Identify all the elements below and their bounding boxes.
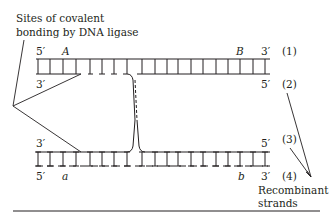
strand-2-crossover-descending	[127, 74, 135, 120]
ligase-leader-lines	[13, 40, 81, 152]
strand1-3prime-label: 3′	[261, 45, 271, 57]
bottom-duplex-base-pairs	[35, 152, 268, 166]
recombinant-annotation-line1: Recombinant	[258, 184, 329, 196]
strand4-5prime-label: 5′	[36, 170, 46, 182]
strand-3-right-segment	[137, 120, 270, 152]
strand4-number: (4)	[282, 170, 297, 182]
top-duplex: 5′ A B 3′ (1)	[36, 45, 297, 120]
strand2-number: (2)	[282, 78, 297, 90]
top-duplex-base-pairs	[38, 59, 265, 74]
strand1-5prime-label: 5′	[36, 45, 46, 57]
strand2-5prime-label: 5′	[261, 78, 271, 90]
strand4-3prime-label: 3′	[261, 170, 271, 182]
bottom-duplex: 3′ 5′ (3)	[35, 120, 297, 182]
holliday-junction-ligation-diagram: Sites of covalent bonding by DNA ligase …	[0, 0, 333, 213]
ligase-annotation-line1: Sites of covalent	[16, 12, 105, 24]
leader-to-bottom-nick	[13, 106, 81, 152]
marker-a: a	[62, 170, 68, 182]
strand3-5prime-label: 5′	[261, 137, 271, 149]
strand3-number: (3)	[282, 133, 297, 145]
marker-b: b	[238, 170, 245, 182]
leader-to-top-nick	[13, 40, 81, 106]
strand3-3prime-label: 3′	[36, 137, 46, 149]
ligase-annotation-line2: bonding by DNA ligase	[16, 26, 139, 38]
strand1-number: (1)	[282, 45, 297, 57]
marker-B: B	[235, 45, 244, 57]
crossover-strand-ascending	[135, 80, 137, 120]
recombinant-annotation-line2: strands	[258, 197, 298, 209]
marker-A: A	[61, 45, 70, 57]
strand-3-crossover-ascending	[81, 120, 135, 152]
strand2-3prime-label: 3′	[36, 78, 46, 90]
